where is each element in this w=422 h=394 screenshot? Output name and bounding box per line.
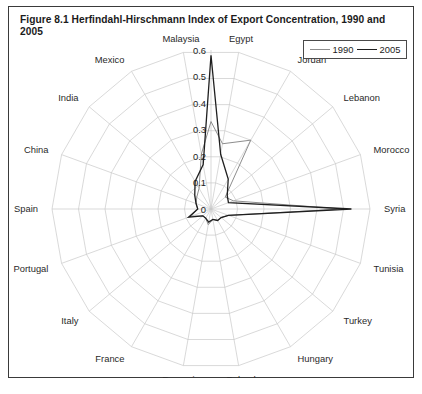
category-label-mexico: Mexico [95, 54, 125, 65]
category-label-italy: Italy [61, 315, 79, 326]
category-label-hungary: Hungary [298, 353, 334, 364]
legend-swatch-1990 [310, 49, 330, 50]
category-label-lebanon: Lebanon [344, 92, 381, 103]
category-label-france: France [95, 353, 124, 364]
legend-entry-2005: 2005 [357, 44, 401, 55]
category-label-morocco: Morocco [374, 144, 410, 155]
category-label-spain: Spain [14, 203, 38, 214]
category-label-poland: Poland [226, 374, 255, 378]
chart-legend: 1990 2005 [303, 40, 407, 59]
radar-chart: 00.10.20.30.40.50.6 EgyptJordanLebanonMo… [8, 6, 414, 378]
figure-root: Figure 8.1 Herfindahl-Hirschmann Index o… [0, 0, 422, 394]
category-label-egypt: Egypt [229, 33, 253, 44]
legend-swatch-2005 [357, 49, 377, 50]
radial-tick-0.2: 0.2 [193, 151, 206, 162]
radial-tick-0: 0 [201, 204, 206, 215]
category-label-turkey: Turkey [344, 315, 373, 326]
radial-tick-0.6: 0.6 [193, 45, 206, 56]
category-label-china: China [24, 144, 49, 155]
category-label-tunisia: Tunisia [374, 263, 405, 274]
legend-label-1990: 1990 [333, 44, 354, 55]
category-label-india: India [58, 92, 79, 103]
legend-entry-1990: 1990 [310, 44, 354, 55]
radial-tick-0.1: 0.1 [193, 177, 206, 188]
radial-tick-0.4: 0.4 [193, 98, 206, 109]
legend-label-2005: 2005 [380, 44, 401, 55]
category-label-portugal: Portugal [14, 263, 49, 274]
radial-tick-0.3: 0.3 [193, 124, 206, 135]
category-label-malaysia: Malaysia [162, 33, 200, 44]
category-label-syria: Syria [384, 203, 406, 214]
category-label-romania: Romania [162, 374, 200, 378]
radial-tick-0.5: 0.5 [193, 71, 206, 82]
